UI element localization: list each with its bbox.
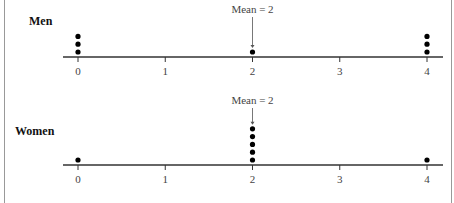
data-dot [250,150,255,155]
panel-label-men: Men [29,14,53,28]
data-dot [250,157,255,162]
data-dot [75,49,80,54]
x-tick-label: 3 [337,65,343,77]
data-dot [75,157,80,162]
data-dot [424,42,429,47]
x-tick-label: 4 [424,65,430,77]
data-dot [250,126,255,131]
data-dot [424,34,429,39]
mean-arrowhead-icon [251,45,255,48]
data-dot [75,42,80,47]
data-dot [75,34,80,39]
x-tick-label: 2 [250,173,256,185]
data-dot [424,157,429,162]
x-tick-label: 2 [250,65,256,77]
x-tick-label: 1 [163,65,169,77]
x-tick-label: 4 [424,173,430,185]
mean-annotation: Mean = 2 [231,94,273,106]
panel-label-women: Women [15,124,55,138]
x-tick-label: 0 [75,173,81,185]
x-tick-label: 0 [75,65,81,77]
mean-arrowhead-icon [251,122,255,125]
data-dot [250,134,255,139]
x-tick-label: 3 [337,173,343,185]
data-dot [250,49,255,54]
data-dot [250,142,255,147]
mean-annotation: Mean = 2 [231,3,273,15]
data-dot [424,49,429,54]
x-tick-label: 1 [163,173,169,185]
dot-plot-figure: Men01234Mean = 2Women01234Mean = 2 [0,0,454,203]
